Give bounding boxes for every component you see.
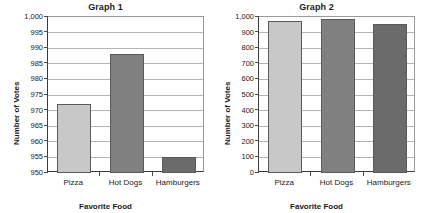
x-axis-tick-mark (152, 172, 153, 176)
y-axis-tick-mark (44, 62, 48, 63)
y-axis-tick-mark (255, 172, 259, 173)
y-axis-tick-label: 600 (220, 74, 254, 83)
y-axis-tick-label: 970 (9, 105, 43, 114)
y-axis-tick-mark (44, 156, 48, 157)
y-axis-tick-mark (255, 156, 259, 157)
y-axis-tick-label: 400 (220, 105, 254, 114)
y-axis-tick-mark (255, 16, 259, 17)
y-axis-tick-label: 900 (220, 27, 254, 36)
chart-title: Graph 2 (211, 2, 422, 12)
y-axis-tick-mark (44, 125, 48, 126)
gridline (48, 48, 203, 49)
y-axis-tick-label: 200 (220, 136, 254, 145)
x-axis-tick-label: Hot Dogs (109, 178, 142, 187)
y-axis-tick-label: 995 (9, 27, 43, 36)
y-axis-tick-mark (255, 125, 259, 126)
y-axis-tick-mark (44, 140, 48, 141)
y-axis-tick-label: 975 (9, 90, 43, 99)
y-axis-tick-mark (255, 140, 259, 141)
y-axis-tick-mark (255, 47, 259, 48)
y-axis-tick-mark (44, 172, 48, 173)
y-axis-tick-mark (44, 47, 48, 48)
y-axis-tick-mark (44, 94, 48, 95)
y-axis-tick-label: 500 (220, 90, 254, 99)
y-axis-tick-label: 100 (220, 152, 254, 161)
bar-hamburgers (373, 24, 407, 173)
y-axis-tick-mark (255, 62, 259, 63)
y-axis-tick-label: 1,000 (220, 12, 254, 21)
chart-panel-graph-2: Graph 2 Number of Votes Favorite Food 01… (211, 0, 422, 213)
x-axis-tick-label: Hot Dogs (320, 178, 353, 187)
x-axis-label: Favorite Food (0, 202, 211, 211)
y-axis-tick-label: 0 (220, 168, 254, 177)
y-axis-tick-label: 960 (9, 136, 43, 145)
bar-hamburgers (162, 157, 196, 173)
x-axis-tick-label: Hamburgers (156, 178, 200, 187)
y-axis-tick-mark (44, 16, 48, 17)
y-axis-tick-mark (255, 109, 259, 110)
y-axis-tick-label: 990 (9, 43, 43, 52)
chart-panel-graph-1: Graph 1 Number of Votes Favorite Food 95… (0, 0, 211, 213)
chart-title: Graph 1 (0, 2, 211, 12)
bar-pizza (57, 104, 91, 173)
y-axis-tick-label: 965 (9, 121, 43, 130)
x-axis-tick-mark (310, 172, 311, 176)
x-axis-tick-label: Pizza (63, 178, 83, 187)
y-axis-tick-label: 985 (9, 58, 43, 67)
y-axis-tick-mark (44, 31, 48, 32)
y-axis-tick-mark (44, 109, 48, 110)
plot-area (47, 16, 204, 172)
x-axis-tick-mark (363, 172, 364, 176)
x-axis-tick-label: Pizza (274, 178, 294, 187)
gridline (48, 32, 203, 33)
bar-pizza (268, 21, 302, 173)
y-axis-tick-mark (255, 94, 259, 95)
y-axis-tick-mark (255, 31, 259, 32)
x-axis-label: Favorite Food (211, 202, 422, 211)
y-axis-tick-label: 1,000 (9, 12, 43, 21)
bar-hot-dogs (321, 19, 355, 173)
x-axis-tick-label: Hamburgers (367, 178, 411, 187)
chart-page: Graph 1 Number of Votes Favorite Food 95… (0, 0, 422, 213)
y-axis-tick-label: 800 (220, 43, 254, 52)
x-axis-tick-mark (99, 172, 100, 176)
y-axis-tick-mark (255, 78, 259, 79)
plot-area (258, 16, 415, 172)
bar-hot-dogs (110, 54, 144, 173)
y-axis-tick-label: 700 (220, 58, 254, 67)
y-axis-tick-mark (44, 78, 48, 79)
y-axis-tick-label: 300 (220, 121, 254, 130)
y-axis-tick-label: 950 (9, 168, 43, 177)
y-axis-tick-label: 980 (9, 74, 43, 83)
y-axis-tick-label: 955 (9, 152, 43, 161)
